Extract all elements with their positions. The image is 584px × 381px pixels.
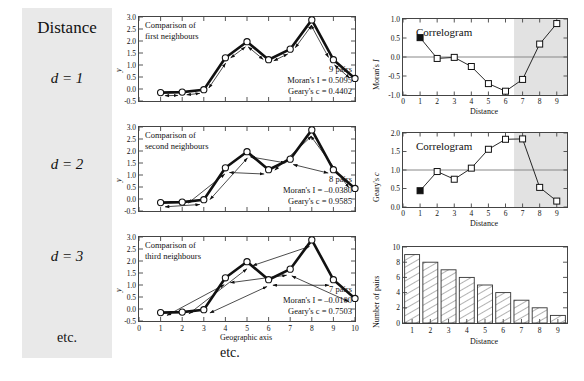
svg-text:6: 6: [396, 273, 400, 282]
svg-text:1: 1: [410, 326, 414, 335]
scatter-3-moran: Moran's I = –0.0100: [232, 295, 352, 306]
svg-text:4: 4: [469, 97, 473, 106]
pairs-bar-panel: Number of pairs 0246810123456789 Distanc…: [368, 240, 584, 360]
svg-text:0.0: 0.0: [127, 85, 137, 94]
svg-text:1: 1: [418, 209, 422, 218]
scatter-panel-2: y -0.50.00.51.01.52.02.53.0 Comparison o…: [112, 122, 362, 228]
svg-text:2: 2: [435, 97, 439, 106]
svg-text:3: 3: [447, 326, 451, 335]
svg-text:0.5: 0.5: [127, 183, 137, 192]
scatter-3-geary: Geary's c = 0.7503: [232, 306, 352, 317]
svg-text:1.0: 1.0: [391, 15, 401, 24]
svg-text:0.0: 0.0: [127, 305, 137, 314]
geary-ylabel: Geary's c: [372, 172, 381, 202]
pairs-ylabel: Number of pairs: [372, 276, 381, 328]
pairs-xlabel: Distance: [402, 337, 566, 346]
svg-text:6: 6: [267, 324, 271, 333]
svg-text:2.0: 2.0: [127, 257, 137, 266]
svg-text:0.5: 0.5: [127, 293, 137, 302]
svg-text:0.5: 0.5: [391, 184, 401, 193]
svg-text:7: 7: [288, 324, 292, 333]
figure-root: Distance d = 1 d = 2 d = 3 etc. y -0.50.…: [0, 0, 584, 381]
svg-text:10: 10: [351, 324, 359, 333]
scatter-panel-1: y -0.50.00.51.01.52.02.53.0 Comparison o…: [112, 12, 362, 118]
svg-text:1.5: 1.5: [127, 159, 137, 168]
svg-text:0.0: 0.0: [127, 195, 137, 204]
svg-text:8: 8: [396, 258, 400, 267]
svg-text:2.0: 2.0: [127, 37, 137, 46]
scatter-3-pairs: 7 pairs: [232, 284, 352, 295]
svg-text:2: 2: [396, 303, 400, 312]
svg-text:2: 2: [428, 326, 432, 335]
scatter-3-stats: 7 pairs Moran's I = –0.0100 Geary's c = …: [232, 284, 352, 317]
svg-text:5: 5: [487, 97, 491, 106]
geary-correlogram-title: Correlogram: [416, 140, 472, 152]
svg-text:5: 5: [487, 209, 491, 218]
svg-text:1: 1: [159, 324, 163, 333]
svg-text:4: 4: [396, 288, 400, 297]
svg-text:7: 7: [520, 326, 524, 335]
scatter-1-pairs: 9 pairs: [232, 64, 352, 75]
svg-text:4: 4: [224, 324, 228, 333]
moran-correlogram-panel: Moran's I 0123456789-1.0-0.50.00.51.0 Co…: [368, 12, 584, 120]
svg-text:2.5: 2.5: [127, 135, 137, 144]
svg-text:6: 6: [501, 326, 505, 335]
svg-text:2: 2: [435, 209, 439, 218]
svg-text:3.0: 3.0: [127, 13, 137, 22]
svg-text:0: 0: [401, 97, 405, 106]
pairs-plot-area: 0246810123456789: [402, 246, 568, 324]
center-etc-label: etc.: [220, 345, 240, 361]
svg-text:0: 0: [401, 209, 405, 218]
moran-xlabel: Distance: [402, 107, 566, 116]
svg-text:-0.5: -0.5: [124, 207, 136, 216]
moran-correlogram-title: Correlogram: [416, 26, 472, 38]
svg-text:1.0: 1.0: [391, 166, 401, 175]
svg-text:8: 8: [538, 326, 542, 335]
svg-text:4: 4: [465, 326, 469, 335]
geary-xlabel: Distance: [402, 219, 566, 228]
scatter-3-ylabel: y: [114, 288, 123, 292]
svg-text:3: 3: [452, 209, 456, 218]
svg-text:9: 9: [332, 324, 336, 333]
svg-text:7: 7: [521, 209, 525, 218]
scatter-2-ylabel: y: [114, 178, 123, 182]
svg-text:0.5: 0.5: [391, 34, 401, 43]
scatter-1-caption: Comparison of first neighbours: [145, 20, 199, 42]
svg-text:4: 4: [469, 209, 473, 218]
svg-text:3.0: 3.0: [127, 123, 137, 132]
svg-text:2: 2: [180, 324, 184, 333]
moran-ylabel: Moran's I: [372, 59, 381, 90]
svg-text:1.0: 1.0: [127, 61, 137, 70]
svg-text:1.5: 1.5: [391, 147, 401, 156]
svg-text:-0.5: -0.5: [124, 97, 136, 106]
svg-text:2.0: 2.0: [127, 147, 137, 156]
svg-text:0.5: 0.5: [127, 73, 137, 82]
svg-text:1: 1: [418, 97, 422, 106]
svg-text:8: 8: [310, 324, 314, 333]
scatter-3-caption: Comparison of third neighbours: [145, 240, 201, 262]
svg-text:3: 3: [452, 97, 456, 106]
svg-text:0: 0: [396, 319, 400, 328]
distance-legend-column: Distance d = 1 d = 2 d = 3 etc.: [22, 8, 112, 358]
scatter-1-stats: 9 pairs Moran's I = 0.5095 Geary's c = 0…: [232, 64, 352, 97]
svg-text:8: 8: [538, 97, 542, 106]
distance-row-label-3: d = 3: [22, 248, 112, 265]
svg-text:-0.5: -0.5: [388, 72, 400, 81]
svg-text:5: 5: [483, 326, 487, 335]
scatter-panel-3: y 012345678910-0.50.00.51.01.52.02.53.0 …: [112, 232, 362, 352]
svg-text:1.5: 1.5: [127, 269, 137, 278]
svg-text:6: 6: [504, 97, 508, 106]
scatter-2-geary: Geary's c = 0.9585: [232, 196, 352, 207]
pairs-svg: 0246810123456789: [403, 247, 567, 323]
svg-text:2.5: 2.5: [127, 25, 137, 34]
svg-text:6: 6: [504, 209, 508, 218]
distance-column-title: Distance: [22, 18, 112, 38]
svg-text:7: 7: [521, 97, 525, 106]
svg-text:0.0: 0.0: [391, 203, 401, 212]
svg-text:2.5: 2.5: [127, 245, 137, 254]
scatter-3-xlabel: Geographic axis: [138, 333, 354, 342]
svg-text:3: 3: [202, 324, 206, 333]
scatter-2-moran: Moran's I = –0.0380: [232, 185, 352, 196]
svg-text:10: 10: [393, 243, 401, 252]
scatter-2-stats: 8 pairs Moran's I = –0.0380 Geary's c = …: [232, 174, 352, 207]
